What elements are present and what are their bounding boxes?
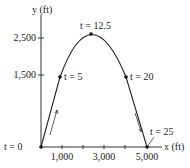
t25-leader: [147, 137, 154, 147]
x-tick-label-1000: 1,000: [51, 151, 74, 162]
point-t0: [39, 145, 43, 149]
label-t25: t = 25: [150, 126, 173, 137]
label-t0: t = 0: [4, 141, 22, 152]
x-tick-label-3000: 3,000: [93, 151, 116, 162]
y-tick-label-1500: 1,500: [14, 69, 37, 80]
point-t12-5: [89, 32, 93, 36]
point-t5: [58, 75, 62, 79]
label-t5: t = 5: [64, 71, 82, 82]
x-axis-label: x (ft): [164, 141, 184, 153]
x-tick-label-5000: 5,000: [136, 151, 159, 162]
label-t12-5: t = 12.5: [80, 20, 111, 31]
label-t20: t = 20: [130, 71, 153, 82]
projectile-diagram: y (ft) x (ft) 2,500 1,500 1,000 3,000 5,…: [0, 0, 190, 168]
y-tick-label-2500: 2,500: [14, 32, 37, 43]
point-t20: [124, 75, 128, 79]
trajectory-curve: [41, 35, 147, 148]
point-t25: [145, 145, 149, 149]
y-axis-label: y (ft): [32, 4, 52, 16]
arrow-up-icon: [50, 110, 57, 135]
